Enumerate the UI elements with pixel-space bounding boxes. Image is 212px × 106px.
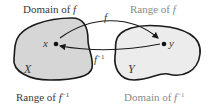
arrow-f-label: f bbox=[104, 12, 107, 23]
arrow-f-inverse-label: f−1 bbox=[94, 54, 105, 65]
label-domain-of-f: Domain of f bbox=[23, 4, 76, 15]
label-domain-of-f-inverse: Domain of f−1 bbox=[124, 92, 185, 103]
function-inverse-diagram: Domain of f Range of f Range of f−1 Doma… bbox=[0, 0, 212, 106]
point-x-label: x bbox=[43, 38, 48, 49]
set-y-label: Y bbox=[128, 63, 135, 75]
set-x-label: X bbox=[24, 63, 31, 75]
label-range-of-f: Range of f bbox=[130, 4, 176, 15]
label-range-of-f-inverse: Range of f−1 bbox=[16, 92, 69, 103]
point-y-label: y bbox=[169, 38, 174, 49]
point-x bbox=[54, 42, 59, 47]
point-y bbox=[162, 42, 167, 47]
